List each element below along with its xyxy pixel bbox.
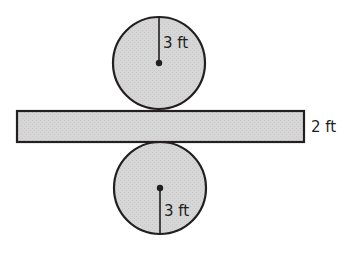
top-circle: 3 ft: [113, 17, 205, 109]
top-center-point: [156, 60, 162, 66]
bar-height-label: 2 ft: [311, 118, 336, 136]
top-radius-label: 3 ft: [163, 34, 188, 52]
bottom-radius-label: 3 ft: [164, 202, 189, 220]
roller-diagram: 3 ft 3 ft 2 ft: [0, 0, 356, 253]
bar: 2 ft: [17, 111, 336, 142]
bottom-center-point: [157, 185, 163, 191]
bar-shape: [17, 111, 304, 142]
bottom-circle: 3 ft: [114, 142, 206, 234]
